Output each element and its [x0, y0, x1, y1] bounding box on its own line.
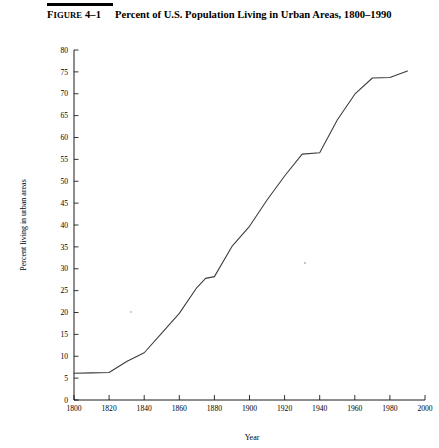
- x-tick-label: 1860: [172, 404, 187, 413]
- chart-canvas: 05101520253035404550556065707580 1800182…: [0, 0, 439, 448]
- speck-mark: [130, 311, 132, 313]
- y-tick-label: 75: [60, 68, 68, 77]
- axis-lines: [74, 50, 425, 400]
- x-tick-label: 1840: [137, 404, 152, 413]
- x-tick-label: 1800: [66, 404, 81, 413]
- data-series-line: [74, 71, 407, 373]
- y-tick-label: 70: [60, 89, 68, 98]
- y-tick-label: 30: [60, 264, 68, 273]
- y-tick-label: 50: [60, 177, 68, 186]
- y-tick-label: 20: [60, 308, 68, 317]
- y-tick-label: 10: [60, 352, 68, 361]
- y-tick-label: 25: [60, 286, 68, 295]
- figure: FIGURE 4–1 Percent of U.S. Population Li…: [0, 0, 439, 448]
- x-tick-label: 1880: [207, 404, 222, 413]
- y-axis-title: Percent living in urban areas: [19, 179, 28, 271]
- y-tick-label: 15: [60, 330, 68, 339]
- x-tick-label: 1820: [102, 404, 117, 413]
- x-tick-label: 1920: [277, 404, 292, 413]
- x-axis-title: Year: [245, 433, 260, 442]
- x-axis-ticks: 1800182018401860188019001920194019601980…: [66, 395, 432, 413]
- x-tick-label: 1940: [312, 404, 327, 413]
- y-tick-label: 55: [60, 155, 68, 164]
- y-tick-label: 80: [60, 46, 68, 55]
- x-tick-label: 2000: [417, 404, 432, 413]
- y-axis-ticks: 05101520253035404550556065707580: [60, 46, 78, 405]
- y-tick-label: 35: [60, 243, 68, 252]
- y-tick-label: 45: [60, 199, 68, 208]
- line-chart: 05101520253035404550556065707580 1800182…: [0, 0, 439, 448]
- y-tick-label: 60: [60, 133, 68, 142]
- x-tick-label: 1960: [347, 404, 362, 413]
- x-tick-label: 1980: [382, 404, 397, 413]
- speck-mark: [304, 262, 306, 264]
- y-tick-label: 65: [60, 111, 68, 120]
- y-tick-label: 40: [60, 221, 68, 230]
- y-tick-label: 5: [64, 374, 68, 383]
- x-tick-label: 1900: [242, 404, 257, 413]
